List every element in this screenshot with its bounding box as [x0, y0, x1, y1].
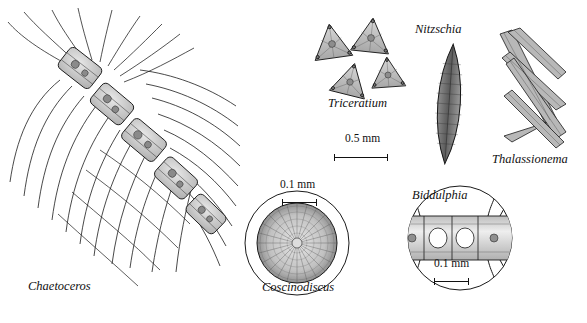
scale-bar-biddulphia [434, 281, 469, 282]
triceratium-illustration [310, 16, 405, 99]
scale-label-coscinodiscus: 0.1 mm [280, 179, 315, 191]
nitzschia-illustration [432, 43, 466, 165]
diatom-plate-figure: Chaetoceros Triceratium Nitzschia Thalas… [0, 0, 587, 323]
label-chaetoceros: Chaetoceros [28, 280, 91, 293]
label-nitzschia: Nitzschia [415, 23, 462, 36]
scale-bar-coscinodiscus [282, 202, 317, 203]
scale-bar-triceratium [334, 157, 388, 158]
chaetoceros-illustration [8, 8, 240, 286]
label-biddulphia: Biddulphia [412, 189, 468, 202]
scale-label-triceratium: 0.5 mm [345, 133, 380, 145]
thalassionema-illustration [500, 28, 566, 148]
label-thalassionema: Thalassionema [492, 153, 568, 166]
scale-label-biddulphia: 0.1 mm [434, 258, 469, 270]
label-coscinodiscus: Coscinodiscus [262, 281, 334, 294]
label-triceratium: Triceratium [328, 97, 387, 110]
